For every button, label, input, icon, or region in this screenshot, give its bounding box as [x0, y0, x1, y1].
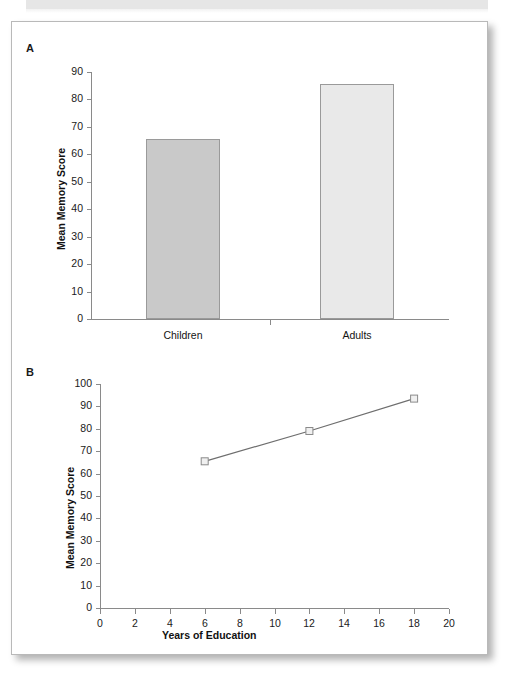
bar-adults[interactable] — [320, 84, 394, 319]
panel-a-y-tick — [87, 72, 91, 73]
figure-page: A Mean Memory Score 0102030405060708090 … — [0, 0, 509, 675]
panel-a-y-tick — [87, 264, 91, 265]
panel-b-data-point[interactable] — [306, 428, 313, 435]
panel-b-data-point[interactable] — [411, 395, 418, 402]
panel-a-y-tick — [87, 237, 91, 238]
panel-a-y-tick-label: 60 — [51, 147, 83, 159]
panel-a-y-tick — [87, 209, 91, 210]
panel-a: A Mean Memory Score 0102030405060708090 … — [12, 22, 489, 342]
panel-a-y-axis — [91, 72, 92, 320]
scan-top-band-fade — [26, 9, 488, 13]
panel-a-y-tick-label: 10 — [51, 285, 83, 297]
panel-a-y-tick — [87, 154, 91, 155]
panel-b-plot-area: 010203040506070809010002468101214161820 — [12, 342, 489, 656]
panel-a-y-tick-label: 30 — [51, 230, 83, 242]
panel-a-category-label: Children — [123, 329, 243, 341]
panel-a-y-tick — [87, 127, 91, 128]
panel-a-y-tick-label: 90 — [51, 65, 83, 77]
panel-a-y-tick — [87, 319, 91, 320]
panel-a-y-tick-label: 50 — [51, 175, 83, 187]
panel-a-y-tick-label: 20 — [51, 257, 83, 269]
panel-b: B Mean Memory Score Years of Education 0… — [12, 342, 489, 656]
bar-children[interactable] — [146, 139, 220, 319]
panel-a-center-tick — [270, 320, 271, 325]
panel-a-y-tick — [87, 182, 91, 183]
scan-top-band — [26, 0, 488, 9]
panel-a-y-tick-label: 40 — [51, 202, 83, 214]
panel-a-y-tick-label: 80 — [51, 92, 83, 104]
panel-b-series — [12, 342, 489, 656]
panel-a-category-label: Adults — [297, 329, 417, 341]
panel-a-y-tick-label: 70 — [51, 120, 83, 132]
panel-a-y-tick — [87, 99, 91, 100]
panel-b-data-point[interactable] — [201, 458, 208, 465]
panel-a-y-tick-label: 0 — [51, 312, 83, 324]
figure-card: A Mean Memory Score 0102030405060708090 … — [11, 21, 488, 655]
panel-a-plot-area: 0102030405060708090 — [12, 22, 489, 342]
panel-a-y-tick — [87, 292, 91, 293]
